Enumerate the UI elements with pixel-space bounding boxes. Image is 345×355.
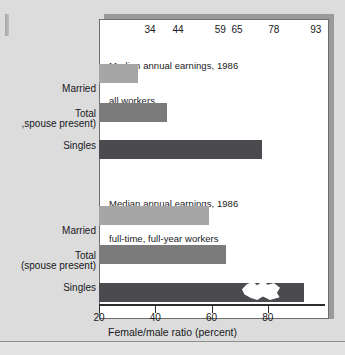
- category-label-line1: Married: [21, 225, 96, 237]
- bar-married-all-workers: [99, 64, 138, 83]
- category-label-total-full-time: Total: [75, 250, 96, 262]
- bar-married-full-time: [99, 206, 209, 225]
- bar-value-label: 65: [232, 20, 243, 39]
- chart-panel: Median annual earnings, 1986 all workers…: [99, 19, 329, 319]
- x-axis-tick-label: 80: [262, 312, 273, 323]
- bar-value-label: 34: [144, 20, 155, 39]
- bar-value-label: 44: [173, 20, 184, 39]
- scan-artifact-bottom-fill: [0, 342, 345, 355]
- category-label-total-all-workers: Total: [75, 108, 96, 120]
- bar-value-label: 93: [310, 20, 321, 39]
- bar-total-all-workers: [99, 103, 167, 122]
- x-axis-tick-label: 60: [206, 312, 217, 323]
- plot-area: Median annual earnings, 1986 all workers…: [100, 20, 330, 320]
- scan-artifact-bottom-rule: [0, 341, 345, 342]
- category-label-married-full-time: Married (spouse present): [21, 202, 96, 283]
- bar-value-label: 59: [215, 20, 226, 39]
- bar-total-full-time: [99, 245, 226, 264]
- scan-artifact-left-mark: [5, 14, 9, 36]
- x-axis-title: Female/male ratio (percent): [0, 326, 345, 338]
- x-axis-tick-label: 40: [150, 312, 161, 323]
- category-label-married-all-workers: Married ,spouse present): [22, 60, 97, 141]
- bar-value-label: 78: [268, 20, 279, 39]
- bar-singles-all-workers: [99, 140, 262, 159]
- category-label-line1: Married: [22, 83, 97, 95]
- category-label-singles-all-workers: Singles: [63, 140, 96, 152]
- group-caption-line2: full-time, full-year workers: [109, 233, 238, 245]
- category-label-singles-full-time: Singles: [63, 282, 96, 294]
- x-axis-tick-label: 20: [93, 312, 104, 323]
